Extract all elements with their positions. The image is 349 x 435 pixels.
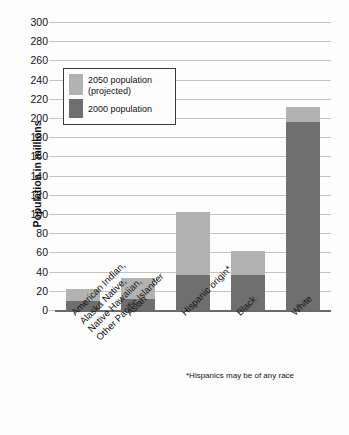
y-tick-label: 0: [42, 304, 48, 316]
legend-swatch-2000-icon: [69, 99, 83, 118]
legend-item-2050: 2050 population (projected): [69, 74, 171, 96]
y-tick-label: 100: [30, 208, 48, 220]
bar-series-container: [55, 22, 331, 310]
category-axis-labels: American Indian,Alaska Native,Native Haw…: [55, 310, 331, 430]
bar-segment-2000: [286, 122, 320, 310]
bar-group: [286, 107, 320, 310]
footnote: *Hispanics may be of any race: [186, 371, 294, 380]
y-tick-label: 140: [30, 170, 48, 182]
y-tick-label: 40: [36, 266, 48, 278]
y-tick-label: 260: [30, 54, 48, 66]
legend-swatch-2050-icon: [69, 74, 83, 95]
y-tick-label: 20: [36, 285, 48, 297]
y-tick-label: 280: [30, 35, 48, 47]
y-tick-label: 160: [30, 150, 48, 162]
population-bar-chart: Population in millions 02040608010012014…: [0, 0, 349, 435]
y-tick-label: 60: [36, 246, 48, 258]
bar-segment-2050: [231, 251, 265, 275]
plot-area: 0204060801001201401601802002202402602803…: [55, 22, 331, 310]
y-tick-label: 200: [30, 112, 48, 124]
y-tick-label: 80: [36, 227, 48, 239]
legend-item-2000: 2000 population: [69, 99, 171, 118]
y-tick-label: 240: [30, 74, 48, 86]
y-tick-label: 120: [30, 189, 48, 201]
legend-label-2050: 2050 population (projected): [88, 74, 152, 96]
chart-legend: 2050 population (projected) 2000 populat…: [63, 68, 176, 125]
y-tick-label: 220: [30, 93, 48, 105]
legend-label-2000: 2000 population: [88, 99, 152, 115]
y-tick-label: 300: [30, 16, 48, 28]
bar-segment-2050: [286, 107, 320, 121]
bar-segment-2050: [176, 212, 210, 275]
y-tick-label: 180: [30, 131, 48, 143]
